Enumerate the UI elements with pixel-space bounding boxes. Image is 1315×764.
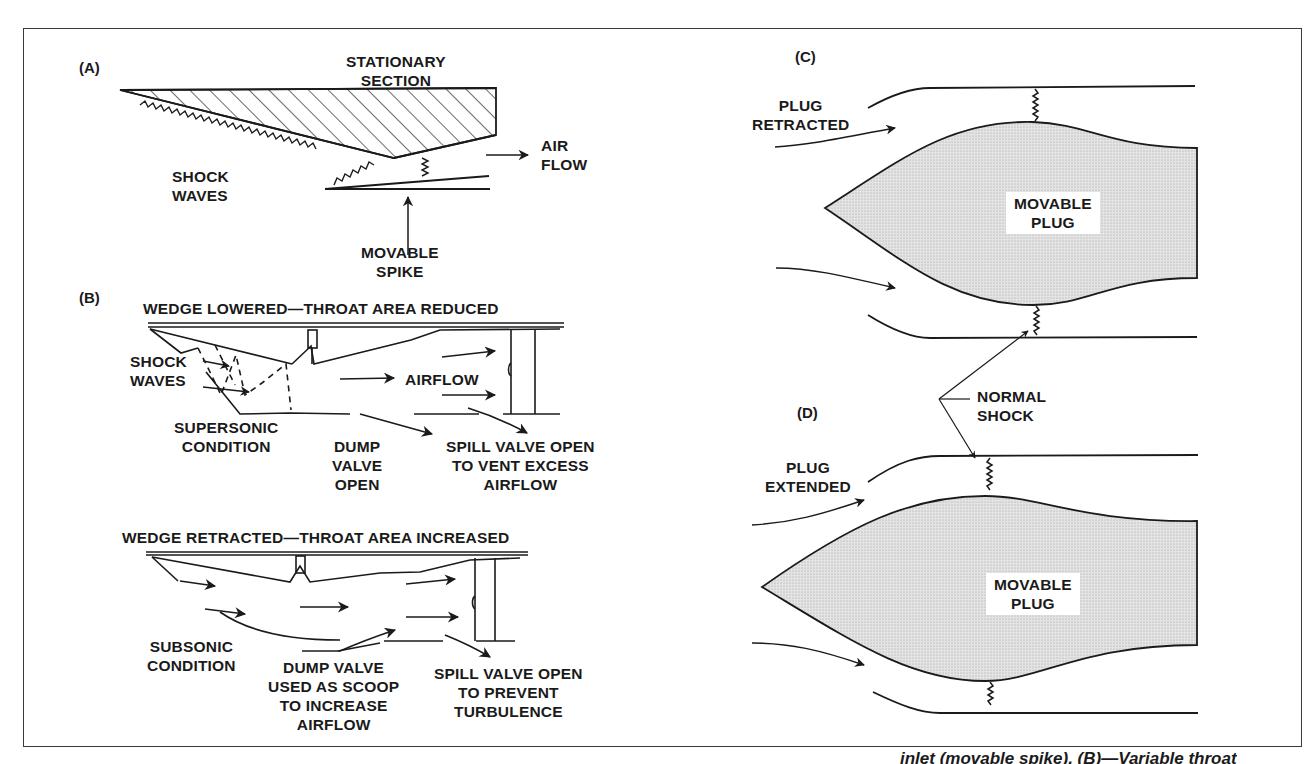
label-line: CONDITION — [174, 437, 279, 456]
label-dump-valve-open: DUMP VALVE OPEN — [332, 437, 382, 494]
label-dump-valve-scoop: DUMP VALVE USED AS SCOOP TO INCREASE AIR… — [268, 658, 399, 734]
label-line: SHOCK — [977, 406, 1046, 425]
label-line: SUPERSONIC — [174, 418, 279, 437]
label-line: SPILL VALVE OPEN — [434, 664, 583, 683]
label-line: SPILL VALVE OPEN — [446, 437, 595, 456]
label-line: AIRFLOW — [268, 715, 399, 734]
label-plug-extended: PLUG EXTENDED — [765, 458, 851, 496]
label-plug-retracted: PLUG RETRACTED — [752, 96, 849, 134]
label-stationary-section: STATIONARY SECTION — [346, 52, 446, 90]
label-line: SHOCK — [172, 167, 229, 186]
label-line: MOVABLE — [994, 575, 1072, 594]
label-line: PLUG — [765, 458, 851, 477]
label-line: CONDITION — [147, 656, 236, 675]
label-normal-shock: NORMAL SHOCK — [977, 387, 1046, 425]
label-line: TO VENT EXCESS — [446, 456, 595, 475]
label-line: TO PREVENT — [434, 683, 583, 702]
label-air-flow: AIR FLOW — [541, 136, 587, 174]
figure-caption: inlet (movable spike). (B)—Variable thro… — [900, 749, 1237, 764]
label-line: TO INCREASE — [268, 696, 399, 715]
label-line: STATIONARY — [346, 52, 446, 71]
label-line: USED AS SCOOP — [268, 677, 399, 696]
panel-label-c: (C) — [795, 48, 816, 65]
label-movable-plug-d: MOVABLE PLUG — [986, 573, 1080, 615]
panel-label-d: (D) — [797, 404, 818, 421]
label-line: WAVES — [130, 371, 187, 390]
shock-wave-3 — [422, 158, 428, 176]
label-line: DUMP VALVE — [268, 658, 399, 677]
label-spill-valve-vent: SPILL VALVE OPEN TO VENT EXCESS AIRFLOW — [446, 437, 595, 494]
label-line: SHOCK — [130, 352, 187, 371]
label-line: FLOW — [541, 155, 587, 174]
label-line: VALVE — [332, 456, 382, 475]
label-shock-waves-a: SHOCK WAVES — [172, 167, 229, 205]
normal-shock-c-bottom — [1034, 306, 1039, 335]
label-line: PLUG — [994, 594, 1072, 613]
label-line: MOVABLE — [1014, 194, 1092, 213]
label-shock-waves-b: SHOCK WAVES — [130, 352, 187, 390]
label-line: SPIKE — [361, 262, 439, 281]
label-line: PLUG — [1014, 213, 1092, 232]
label-line: SUBSONIC — [147, 637, 236, 656]
panel-label-b: (B) — [79, 289, 100, 306]
label-line: EXTENDED — [765, 477, 851, 496]
title-wedge-lowered: WEDGE LOWERED—THROAT AREA REDUCED — [143, 299, 499, 318]
label-line: PLUG — [752, 96, 849, 115]
label-line: AIR — [541, 136, 587, 155]
label-subsonic-condition: SUBSONIC CONDITION — [147, 637, 236, 675]
normal-shock-c-top — [1033, 89, 1038, 121]
title-wedge-retracted: WEDGE RETRACTED—THROAT AREA INCREASED — [122, 528, 509, 547]
label-movable-spike: MOVABLE SPIKE — [361, 243, 439, 281]
label-airflow-b: AIRFLOW — [405, 370, 479, 389]
panel-label-a: (A) — [79, 59, 100, 76]
label-spill-valve-turbulence: SPILL VALVE OPEN TO PREVENT TURBULENCE — [434, 664, 583, 721]
label-line: AIRFLOW — [446, 475, 595, 494]
movable-spike — [325, 176, 490, 189]
label-line: WAVES — [172, 186, 229, 205]
shock-wave-2 — [334, 162, 374, 185]
normal-shock-d-top — [987, 458, 992, 490]
normal-shock-d-bottom — [988, 682, 993, 705]
label-line: TURBULENCE — [434, 702, 583, 721]
label-line: RETRACTED — [752, 115, 849, 134]
label-movable-plug-c: MOVABLE PLUG — [1006, 192, 1100, 234]
label-line: OPEN — [332, 475, 382, 494]
label-line: SECTION — [346, 71, 446, 90]
label-line: DUMP — [332, 437, 382, 456]
label-supersonic-condition: SUPERSONIC CONDITION — [174, 418, 279, 456]
label-line: NORMAL — [977, 387, 1046, 406]
label-line: MOVABLE — [361, 243, 439, 262]
